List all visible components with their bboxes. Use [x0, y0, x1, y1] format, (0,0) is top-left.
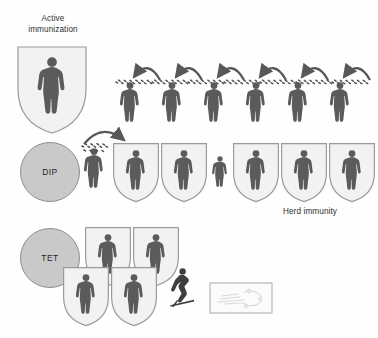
shielded-person	[64, 268, 109, 326]
badge-dip-label: DIP	[42, 167, 57, 177]
wound-photo-card	[210, 283, 272, 313]
germ-cloud-band	[116, 80, 368, 84]
badge-dip: DIP	[20, 142, 80, 202]
hero-shield	[16, 45, 88, 135]
shielded-person	[330, 144, 375, 202]
shielded-person	[112, 268, 157, 326]
spread-arrow	[84, 132, 124, 144]
person-icon	[246, 82, 265, 122]
person-icon	[120, 82, 139, 122]
shielded-person	[234, 144, 279, 202]
shielded-person	[114, 144, 159, 202]
middle-row-herd-immunity	[80, 126, 378, 206]
unshielded-person-protected-by-herd	[212, 156, 227, 187]
shielded-person	[282, 144, 327, 202]
top-row-transmission-chain	[112, 52, 378, 130]
page-title: Active immunization	[14, 13, 92, 35]
person-icon	[288, 82, 307, 122]
bottom-row-tetanus-cluster	[56, 222, 272, 338]
herd-immunity-label: Herd immunity	[262, 206, 358, 217]
top-row-people	[120, 82, 349, 122]
transmission-arrows	[134, 68, 370, 80]
index-case-person	[84, 148, 103, 188]
person-icon	[162, 82, 181, 122]
person-icon	[330, 82, 349, 122]
person-icon	[204, 82, 223, 122]
immunization-diagram: Active immunization DIP TET	[0, 0, 378, 338]
shielded-person	[162, 144, 207, 202]
